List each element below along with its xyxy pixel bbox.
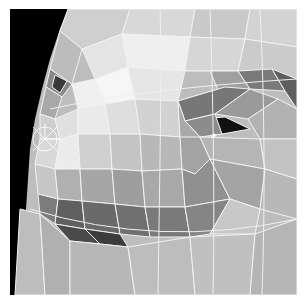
mesh-render bbox=[10, 9, 297, 295]
mesh-svg bbox=[10, 9, 297, 295]
